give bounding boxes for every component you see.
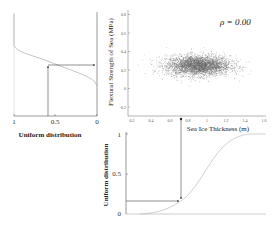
svg-text:0.5: 0.5 [112, 170, 121, 178]
left-tick-05: 0.5 [51, 118, 60, 126]
left-cdf-panel: 1 0.5 0 Uniform distribution [12, 12, 99, 139]
svg-text:0.4: 0.4 [121, 49, 126, 54]
svg-text:-0.2: -0.2 [120, 105, 126, 110]
copula-diagram: 1 0.5 0 Uniform distribution Flexural St… [0, 0, 280, 225]
thickness-marker [180, 118, 182, 120]
left-tick-0: 0 [95, 118, 99, 126]
scatter-ylabel: Flexural Strength of Sea (MPa) [107, 17, 115, 106]
svg-text:1.6: 1.6 [262, 118, 267, 123]
left-tick-1: 1 [12, 118, 16, 126]
svg-text:1.4: 1.4 [243, 118, 248, 123]
left-panel-xlabel: Uniform distribution [19, 131, 82, 139]
svg-text:0: 0 [118, 210, 122, 218]
svg-text:0.8: 0.8 [121, 12, 126, 17]
svg-text:1: 1 [206, 118, 208, 123]
svg-text:0.2: 0.2 [130, 118, 135, 123]
rho-annotation: ρ = 0.00 [219, 17, 251, 27]
bottom-cdf-panel: Uniform distribution 1 0.5 0 [102, 120, 266, 218]
scatter-points [138, 47, 252, 86]
svg-text:0.2: 0.2 [121, 68, 126, 73]
svg-text:0.6: 0.6 [168, 118, 173, 123]
left-cdf-curve [14, 14, 97, 86]
scatter-panel: Flexural Strength of Sea (MPa) 0.8 0.6 0… [107, 10, 267, 133]
scatter-yticks: 0.8 0.6 0.4 0.2 0 -0.2 [120, 12, 130, 110]
scatter-xlabel: Sea Ice Thickness (m) [187, 125, 250, 133]
svg-text:0.8: 0.8 [186, 118, 191, 123]
svg-text:0: 0 [124, 86, 126, 91]
bottom-panel-ylabel: Uniform distribution [102, 143, 110, 206]
svg-text:1.2: 1.2 [224, 118, 229, 123]
svg-text:0.6: 0.6 [121, 31, 126, 36]
bottom-cdf-curve [140, 134, 266, 214]
scatter-xticks: 0.2 0.4 0.6 0.8 1 1.2 1.4 1.6 [130, 118, 267, 123]
svg-text:0.4: 0.4 [149, 118, 154, 123]
svg-text:1: 1 [118, 131, 122, 139]
